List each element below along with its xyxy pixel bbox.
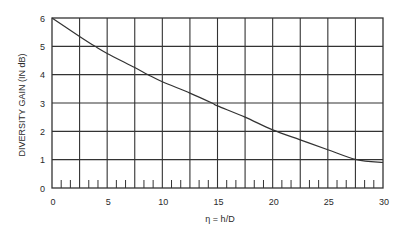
y-tick-label: 0 bbox=[40, 184, 45, 194]
x-tick-label: 0 bbox=[50, 197, 55, 207]
y-axis-title: DIVERSITY GAIN (IN dB) bbox=[17, 54, 27, 157]
y-tick-label: 4 bbox=[40, 70, 45, 80]
y-tick-label: 2 bbox=[40, 127, 45, 137]
x-tick-label: 15 bbox=[213, 197, 223, 207]
x-tick-label: 5 bbox=[106, 197, 111, 207]
x-tick-label: 25 bbox=[324, 197, 334, 207]
x-axis-title: η = h/D bbox=[205, 214, 235, 224]
x-tick-label: 20 bbox=[269, 197, 279, 207]
diversity-gain-chart: 051015202530 0123456 η = h/D DIVERSITY G… bbox=[0, 0, 406, 229]
y-tick-label: 3 bbox=[40, 99, 45, 109]
x-tick-labels: 051015202530 bbox=[50, 197, 389, 207]
y-tick-label: 5 bbox=[40, 42, 45, 52]
x-tick-label: 30 bbox=[379, 197, 389, 207]
y-tick-labels: 0123456 bbox=[40, 14, 45, 194]
y-tick-label: 1 bbox=[40, 155, 45, 165]
x-tick-label: 10 bbox=[158, 197, 168, 207]
y-tick-label: 6 bbox=[40, 14, 45, 24]
grid-lines bbox=[52, 18, 383, 188]
